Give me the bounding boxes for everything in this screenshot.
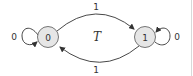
diagram-title: T xyxy=(93,30,102,44)
state-diagram: 1 1 0 0 0 1 T xyxy=(0,0,193,76)
self-loop-s0 xyxy=(22,28,38,44)
edge-s0-to-s1 xyxy=(57,14,134,31)
self-loop-s1 xyxy=(155,28,170,45)
state-node-label-s0: 0 xyxy=(45,33,51,43)
state-node-label-s1: 1 xyxy=(142,33,148,43)
edge-s1-to-s0 xyxy=(60,46,139,62)
self-loop-label-s0: 0 xyxy=(11,32,17,42)
edge-label-s0-to-s1: 1 xyxy=(93,2,99,12)
self-loop-label-s1: 0 xyxy=(174,32,180,42)
edge-label-s1-to-s0: 1 xyxy=(93,65,99,75)
